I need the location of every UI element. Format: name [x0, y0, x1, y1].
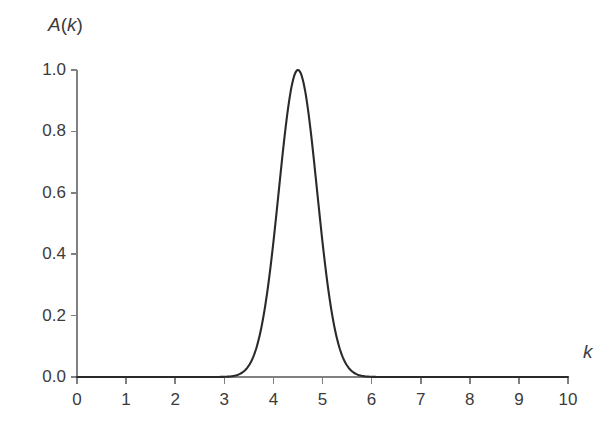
y-axis-ticks — [71, 70, 77, 377]
y-axis-title-symbol: A — [48, 14, 61, 35]
x-tick-label: 8 — [465, 390, 474, 410]
y-axis-title: A(k) — [48, 14, 83, 36]
axes-group — [77, 70, 568, 377]
x-tick-label: 2 — [170, 390, 179, 410]
x-tick-label: 5 — [318, 390, 327, 410]
x-tick-label: 1 — [121, 390, 130, 410]
gaussian-curve — [77, 70, 568, 377]
chart-figure: 0.00.20.40.60.81.0 012345678910 A(k) k — [0, 0, 612, 426]
y-tick-label: 0.4 — [14, 244, 66, 264]
y-tick-label: 0.2 — [14, 306, 66, 326]
x-tick-label: 4 — [269, 390, 278, 410]
y-tick-label: 0.8 — [14, 121, 66, 141]
x-tick-label: 7 — [416, 390, 425, 410]
y-tick-label: 0.0 — [14, 367, 66, 387]
x-tick-label: 6 — [367, 390, 376, 410]
plot-canvas — [0, 0, 612, 426]
y-tick-label: 1.0 — [14, 60, 66, 80]
y-axis-title-variable: k — [67, 14, 77, 35]
x-tick-label: 9 — [514, 390, 523, 410]
x-tick-label: 3 — [220, 390, 229, 410]
x-axis-title: k — [583, 341, 593, 363]
y-tick-label: 0.6 — [14, 183, 66, 203]
x-tick-label: 10 — [559, 390, 578, 410]
x-tick-label: 0 — [72, 390, 81, 410]
y-axis-title-paren-close: ) — [77, 14, 83, 35]
